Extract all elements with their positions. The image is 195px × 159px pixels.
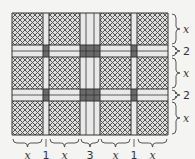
height-brace [172, 14, 180, 44]
row-height-label: 2 [183, 45, 190, 58]
hatched-patch [137, 101, 168, 135]
column-width-label: x [24, 149, 31, 159]
path-segment [43, 13, 49, 45]
row-height-label: 2 [183, 89, 190, 102]
hatched-patch [12, 101, 43, 135]
path-segment [80, 101, 100, 135]
hatched-patch [49, 13, 80, 45]
row-height-label: x [183, 67, 190, 80]
row-height-label: x [183, 23, 190, 36]
width-brace [81, 139, 99, 147]
path-segment [131, 57, 137, 89]
hatched-patch [100, 13, 131, 45]
path-segment [131, 13, 137, 45]
hatched-patch [12, 13, 43, 45]
hatched-patch [137, 57, 168, 89]
hatched-patch [12, 57, 43, 89]
column-width-label: x [149, 149, 156, 159]
hatched-patch [137, 13, 168, 45]
width-brace [50, 139, 79, 147]
column-width-label: x [112, 149, 119, 159]
hatched-patch [100, 57, 131, 89]
path-segment [43, 101, 49, 135]
column-width-label: 1 [43, 149, 50, 159]
hatched-patch [49, 101, 80, 135]
hatched-patch [49, 57, 80, 89]
width-brace [138, 139, 167, 147]
tiling-diagram: x1x3x1xx2x2x [0, 0, 195, 159]
path-segment [131, 101, 137, 135]
path-segment [43, 57, 49, 89]
row-height-label: x [183, 112, 190, 125]
column-width-label: 3 [87, 149, 94, 159]
height-brace [172, 46, 180, 56]
column-width-label: x [61, 149, 68, 159]
width-brace [101, 139, 130, 147]
height-brace [172, 58, 180, 88]
height-brace [172, 90, 180, 100]
height-brace [172, 102, 180, 134]
path-segment [80, 13, 100, 45]
hatched-patch [100, 101, 131, 135]
path-segment [80, 57, 100, 89]
width-brace [13, 139, 42, 147]
column-width-label: 1 [131, 149, 138, 159]
